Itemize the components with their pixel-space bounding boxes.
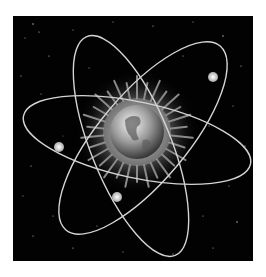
earth-globe-icon (110, 105, 164, 159)
atom-earth-image (13, 16, 253, 261)
electron-left (54, 142, 64, 152)
atom-illustration (13, 16, 253, 261)
electron-bottom (112, 192, 122, 202)
electron-top-right (208, 72, 218, 82)
